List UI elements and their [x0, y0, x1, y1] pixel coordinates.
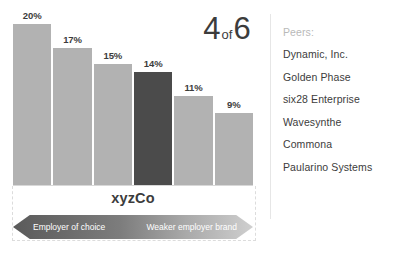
peer-list-item: Paularino Systems	[283, 161, 393, 173]
employer-brand-scale-arrow: Employer of choice Weaker employer brand	[13, 215, 253, 239]
peer-list-item: Wavesynthe	[283, 116, 393, 128]
rank-total: 6	[233, 11, 250, 46]
bar	[94, 64, 132, 185]
peers-title: Peers:	[283, 26, 393, 38]
chart-baseline	[13, 185, 253, 186]
peer-list-item: Golden Phase	[283, 71, 393, 83]
peer-list-item: Dynamic, Inc.	[283, 48, 393, 60]
rank-value: 4	[203, 11, 220, 46]
rank-connector: of	[221, 27, 234, 42]
peers-panel: Peers: Dynamic, Inc.Golden Phasesix28 En…	[283, 26, 393, 183]
bar-value-label: 9%	[201, 99, 267, 110]
rank-headline: 4of6	[186, 13, 268, 44]
scale-right-label: Weaker employer brand	[146, 215, 237, 239]
scale-left-label: Employer of choice	[33, 215, 105, 239]
bar-column: 15%	[94, 8, 132, 185]
bar	[13, 24, 51, 185]
company-label: xyzCo	[13, 190, 253, 206]
peer-list-item: six28 Enterprise	[283, 93, 393, 105]
peer-list-item: Commona	[283, 138, 393, 150]
bar	[53, 48, 91, 185]
chart-panel: 20%17%15%14%11%9% 4of6 xyzCo Employer of…	[0, 0, 270, 258]
bar-column: 14%	[134, 8, 172, 185]
bar	[215, 113, 253, 185]
bar-column: 17%	[53, 8, 91, 185]
panel-divider	[270, 14, 271, 219]
peers-list: Dynamic, Inc.Golden Phasesix28 Enterpris…	[283, 48, 393, 173]
